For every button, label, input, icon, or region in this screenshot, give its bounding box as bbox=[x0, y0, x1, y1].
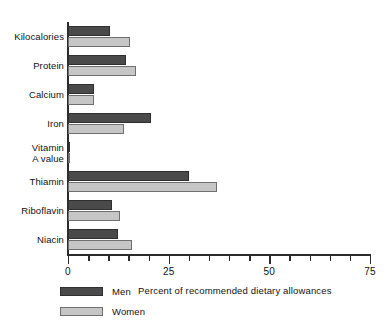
bar-women-7 bbox=[68, 240, 132, 250]
legend-swatch-men bbox=[60, 287, 103, 296]
x-axis-line bbox=[67, 254, 371, 256]
bar-men-4 bbox=[68, 142, 70, 152]
category-label-2: Calcium bbox=[0, 89, 64, 100]
bar-men-7 bbox=[68, 229, 118, 239]
plot-area bbox=[68, 22, 370, 254]
tick-45 bbox=[249, 255, 250, 261]
legend-label-men: Men bbox=[112, 286, 131, 297]
bar-men-5 bbox=[68, 171, 189, 181]
bar-men-3 bbox=[68, 113, 151, 123]
x-axis-title: Percent of recommended dietary allowance… bbox=[138, 285, 332, 296]
bar-men-2 bbox=[68, 84, 94, 94]
category-label-1: Protein bbox=[0, 60, 64, 71]
category-label-6: Riboflavin bbox=[0, 205, 64, 216]
legend-swatch-women bbox=[60, 307, 103, 316]
tick-70 bbox=[350, 255, 351, 261]
tick-65 bbox=[330, 255, 331, 261]
bar-chart: KilocaloriesProteinCalciumIronVitamin A … bbox=[0, 0, 389, 325]
tick-label-75: 75 bbox=[364, 266, 376, 277]
legend-item-women: Women bbox=[60, 303, 145, 319]
bar-women-6 bbox=[68, 211, 120, 221]
tick-20 bbox=[149, 255, 150, 261]
bar-women-0 bbox=[68, 37, 130, 47]
category-label-5: Thiamin bbox=[0, 176, 64, 187]
bar-women-2 bbox=[68, 95, 94, 105]
tick-label-25: 25 bbox=[163, 266, 175, 277]
tick-5 bbox=[88, 255, 89, 261]
tick-60 bbox=[310, 255, 311, 261]
category-label-3: Iron bbox=[0, 118, 64, 129]
bar-women-4 bbox=[68, 153, 70, 163]
bar-women-3 bbox=[68, 124, 124, 134]
category-label-7: Niacin bbox=[0, 234, 64, 245]
tick-35 bbox=[209, 255, 210, 261]
category-label-0: Kilocalories bbox=[0, 31, 64, 42]
tick-label-50: 50 bbox=[264, 266, 276, 277]
bar-women-5 bbox=[68, 182, 217, 192]
tick-75 bbox=[370, 255, 371, 264]
tick-50 bbox=[269, 255, 270, 264]
legend-label-women: Women bbox=[112, 306, 145, 317]
tick-30 bbox=[189, 255, 190, 261]
tick-40 bbox=[229, 255, 230, 261]
bar-women-1 bbox=[68, 66, 136, 76]
bar-men-0 bbox=[68, 26, 110, 36]
legend-item-men: Men bbox=[60, 283, 145, 299]
chart-legend: Men Women bbox=[60, 283, 145, 323]
tick-10 bbox=[108, 255, 109, 261]
tick-55 bbox=[289, 255, 290, 261]
tick-15 bbox=[128, 255, 129, 261]
tick-25 bbox=[169, 255, 170, 264]
category-label-4: Vitamin A value bbox=[0, 142, 64, 164]
bar-men-6 bbox=[68, 200, 112, 210]
tick-label-0: 0 bbox=[65, 266, 71, 277]
tick-0 bbox=[68, 255, 69, 264]
bar-men-1 bbox=[68, 55, 126, 65]
